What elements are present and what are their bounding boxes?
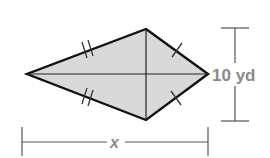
horizontal-dimension-label: x [109,134,120,151]
kite-diagram: 10 yd x [0,0,270,158]
kite-figure-svg: 10 yd x [0,0,270,158]
vertical-dimension-label: 10 yd [212,66,255,85]
